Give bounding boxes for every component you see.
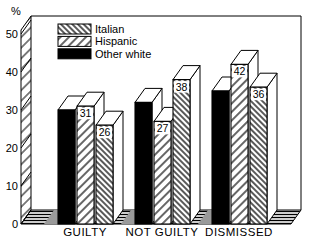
category-label-dismissed: DISMISSED: [205, 226, 273, 238]
y-tick-label: 20: [6, 142, 18, 154]
legend-label-italian: Italian: [95, 23, 124, 35]
verdict-by-ethnicity-3d-bar-chart: 01020304050% 303126GUILTY322738NOT GUILT…: [0, 0, 311, 243]
y-axis-unit-label: %: [11, 5, 21, 17]
legend-swatch-hispanic: [58, 36, 91, 46]
legend-label-hispanic: Hispanic: [95, 35, 138, 47]
bar-value-label: 26: [99, 126, 111, 138]
bar-not-guilty-hispanic: [154, 121, 171, 224]
legend-swatch-italian: [58, 24, 91, 34]
bar-dismissed-italian-side: [267, 73, 277, 224]
bar-dismissed-hispanic: [231, 64, 248, 224]
bar-guilty-italian: [96, 125, 113, 224]
bar-value-label: 38: [176, 81, 188, 93]
bar-value-label: 32: [138, 104, 150, 116]
bar-guilty-other-white: [58, 110, 75, 224]
legend-label-other-white: Other white: [95, 48, 151, 60]
bar-value-label: 42: [234, 65, 246, 77]
y-tick-label: 0: [12, 218, 18, 230]
y-tick-label: 10: [6, 180, 18, 192]
bar-guilty-hispanic: [77, 106, 94, 224]
bar-dismissed-other-white: [212, 91, 229, 224]
bar-not-guilty-other-white: [135, 102, 152, 224]
y-tick-label: 50: [6, 28, 18, 40]
bar-value-label: 35: [215, 93, 227, 105]
bar-value-label: 27: [157, 122, 169, 134]
bar-value-label: 31: [80, 107, 92, 119]
bar-guilty-italian-side: [113, 111, 123, 224]
bar-value-label: 30: [61, 112, 73, 124]
y-tick-label: 40: [6, 66, 18, 78]
category-label-guilty: GUILTY: [63, 226, 107, 238]
bar-not-guilty-italian-side: [190, 66, 200, 224]
bar-not-guilty-italian: [173, 80, 190, 224]
bar-value-label: 36: [253, 88, 265, 100]
bar-dismissed-italian: [250, 87, 267, 224]
chart-canvas: 01020304050% 303126GUILTY322738NOT GUILT…: [0, 0, 311, 243]
legend-layer: ItalianHispanicOther white: [58, 23, 151, 60]
legend-swatch-other-white: [58, 49, 91, 59]
y-axis-wall: [21, 16, 31, 224]
y-tick-label: 30: [6, 104, 18, 116]
category-label-not-guilty: NOT GUILTY: [126, 226, 199, 238]
